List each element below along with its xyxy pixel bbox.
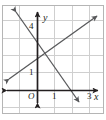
coordinate-plane-svg — [0, 0, 106, 120]
y-axis-label: y — [43, 13, 47, 23]
origin-label: O — [28, 92, 35, 101]
y-tick-label-4: 4 — [29, 22, 34, 31]
y-tick-label-1: 1 — [29, 68, 34, 77]
graph-figure: y x O 1 3 1 4 — [0, 0, 106, 120]
x-axis-label: x — [94, 92, 98, 102]
x-tick-label-3: 3 — [87, 92, 92, 101]
x-tick-label-1: 1 — [52, 92, 57, 101]
